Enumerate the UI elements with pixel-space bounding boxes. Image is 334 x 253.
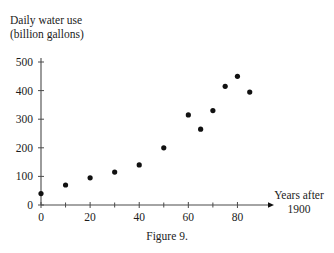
y-tick-label: 0 [27,199,33,211]
data-point [112,170,117,175]
figure-caption: Figure 9. [0,230,334,242]
scatter-plot: 0100200300400500 020406080 [0,0,334,253]
data-point-group [38,74,252,196]
x-tick-label: 0 [38,211,44,223]
y-tick-group: 0100200300400500 [16,56,44,211]
data-point [198,127,203,132]
figure-container: Daily water use (billion gallons) Years … [0,0,334,253]
data-point [247,89,252,94]
y-tick-label: 300 [16,113,34,125]
axes [41,58,274,208]
x-tick-label: 40 [133,211,145,223]
y-tick-label: 100 [16,170,34,182]
y-tick-label: 200 [16,142,34,154]
data-point [186,112,191,117]
data-point [63,182,68,187]
x-axis-arrowhead [268,202,274,208]
data-point [38,191,43,196]
data-point [223,84,228,89]
data-point [137,162,142,167]
x-tick-label: 60 [183,211,195,223]
x-tick-label: 20 [84,211,96,223]
y-tick-label: 500 [16,56,34,68]
data-point [161,145,166,150]
data-point [88,175,93,180]
y-tick-label: 400 [16,85,34,97]
data-point [210,108,215,113]
data-point [235,74,240,79]
x-tick-label: 80 [232,211,244,223]
